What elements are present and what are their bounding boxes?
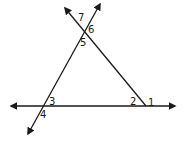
angle-diagram: 1 2 3 4 5 6 7 (0, 0, 186, 148)
angle-label-3: 3 (49, 97, 55, 107)
angle-label-1: 1 (148, 98, 154, 108)
angle-label-4: 4 (40, 110, 46, 120)
angle-label-2: 2 (130, 97, 136, 107)
diagram-lines (0, 0, 186, 148)
angle-label-7: 7 (78, 13, 84, 23)
angle-label-5: 5 (80, 38, 86, 48)
angle-label-6: 6 (88, 25, 94, 35)
